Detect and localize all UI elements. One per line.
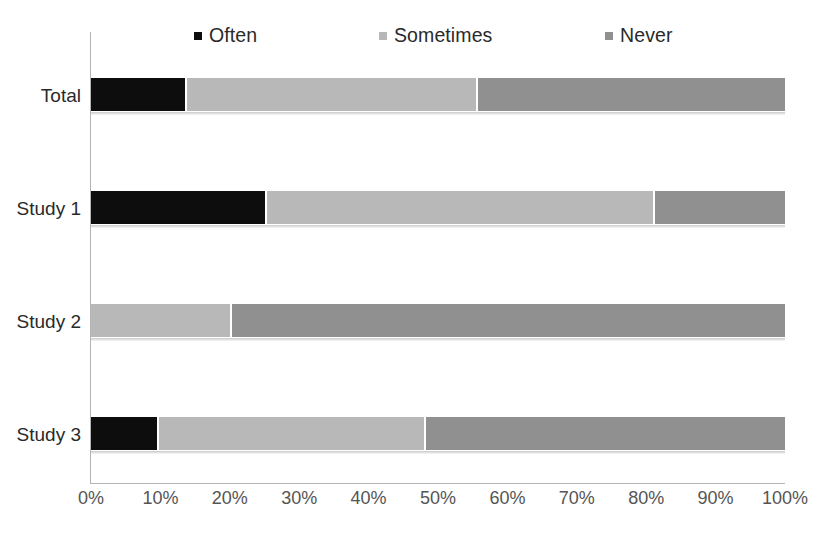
y-axis-label-study-1: Study 1 [1,199,81,218]
bar-segment-sometimes[interactable] [185,78,476,111]
bar-track [91,417,785,450]
bar-segment-often[interactable] [91,417,157,450]
bar-segment-sometimes[interactable] [91,304,230,337]
y-axis-category-labels: TotalStudy 1Study 2Study 3 [0,32,81,484]
bar-shadow [91,112,785,115]
bar-segment-never[interactable] [653,191,785,224]
bar-row [91,304,785,337]
bar-segment-often[interactable] [91,191,265,224]
x-tick-label: 60% [489,489,525,507]
stacked-bar-chart: Often Sometimes Never TotalStudy 1Study … [0,0,826,538]
bar-track [91,304,785,337]
bar-row [91,417,785,450]
bar-segment-never[interactable] [424,417,785,450]
bar-track [91,191,785,224]
y-axis-label-study-3: Study 3 [1,425,81,444]
bar-shadow [91,451,785,454]
x-axis-line [90,483,785,484]
bar-track [91,78,785,111]
bar-segment-sometimes[interactable] [157,417,424,450]
x-tick-label: 80% [628,489,664,507]
x-tick-label: 90% [698,489,734,507]
bar-segment-never[interactable] [230,304,785,337]
x-tick-label: 70% [559,489,595,507]
bar-shadow [91,338,785,341]
x-tick-label: 0% [78,489,104,507]
x-tick-label: 10% [142,489,178,507]
x-tick-label: 100% [762,489,808,507]
bar-segment-sometimes[interactable] [265,191,654,224]
bar-row [91,191,785,224]
bar-segment-never[interactable] [476,78,785,111]
y-axis-label-total: Total [1,86,81,105]
x-axis-tick-labels: 0%10%20%30%40%50%60%70%80%90%100% [91,489,785,515]
y-axis-label-study-2: Study 2 [1,312,81,331]
plot-area [91,32,785,484]
x-tick-label: 40% [351,489,387,507]
x-tick-label: 30% [281,489,317,507]
bar-row [91,78,785,111]
bar-shadow [91,225,785,228]
bar-segment-often[interactable] [91,78,185,111]
x-tick-label: 20% [212,489,248,507]
x-tick-label: 50% [420,489,456,507]
